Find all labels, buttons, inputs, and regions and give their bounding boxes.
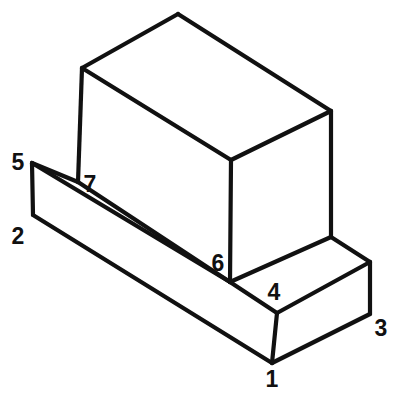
vertex-label-1: 1	[266, 366, 279, 392]
isometric-drawing-canvas: 1234567	[0, 0, 396, 403]
edge-upper-vert-front	[230, 160, 231, 282]
edge-base-vert-left	[32, 163, 33, 215]
vertex-label-3: 3	[375, 315, 388, 341]
vertex-label-7: 7	[84, 171, 97, 197]
isometric-block-svg: 1234567	[0, 0, 396, 403]
vertex-label-2: 2	[12, 223, 25, 249]
vertex-label-4: 4	[268, 279, 281, 305]
vertex-label-5: 5	[12, 149, 25, 175]
vertex-label-6: 6	[212, 250, 225, 276]
